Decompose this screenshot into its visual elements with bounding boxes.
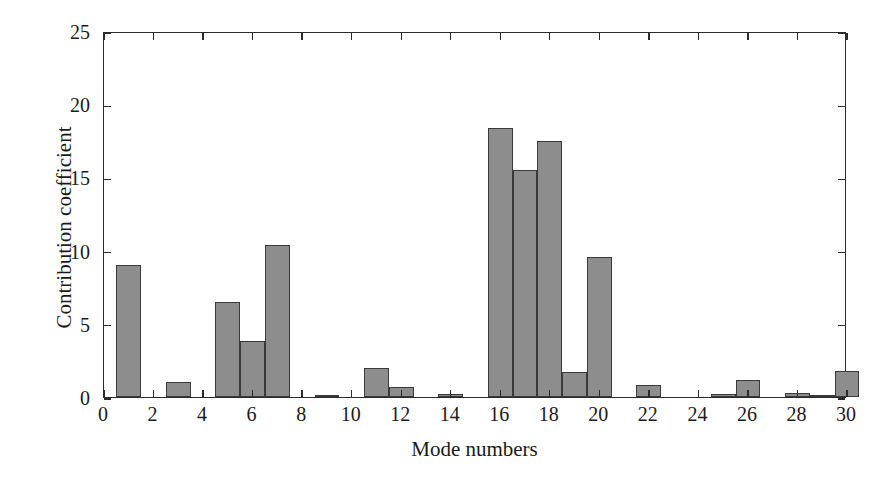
- x-tick-label-14: 14: [440, 404, 460, 424]
- x-tick-10: [351, 33, 352, 40]
- x-tick-14: [450, 390, 451, 397]
- y-tick-25: [104, 32, 111, 33]
- x-tick-label-2: 2: [148, 404, 158, 424]
- x-tick-28: [797, 390, 798, 397]
- x-tick-28: [797, 33, 798, 40]
- x-tick-label-12: 12: [390, 404, 410, 424]
- x-tick-24: [698, 390, 699, 397]
- x-tick-26: [747, 33, 748, 40]
- y-tick-10: [104, 252, 111, 253]
- bar-mode-9: [315, 395, 340, 397]
- x-tick-6: [252, 390, 253, 397]
- x-tick-18: [549, 33, 550, 40]
- bar-mode-3: [166, 382, 191, 397]
- bar-mode-6: [240, 341, 265, 397]
- x-tick-4: [202, 33, 203, 40]
- y-tick-10: [838, 252, 845, 253]
- x-tick-22: [648, 390, 649, 397]
- x-tick-12: [401, 390, 402, 397]
- bar-mode-7: [265, 245, 290, 397]
- x-tick-label-8: 8: [296, 404, 306, 424]
- plot-area: [103, 32, 846, 398]
- bar-mode-16: [488, 128, 513, 397]
- bar-mode-18: [537, 141, 562, 397]
- bar-mode-1: [116, 265, 141, 397]
- x-tick-label-4: 4: [197, 404, 207, 424]
- y-tick-15: [104, 179, 111, 180]
- x-tick-label-28: 28: [786, 404, 806, 424]
- x-tick-26: [747, 390, 748, 397]
- y-tick-15: [838, 179, 845, 180]
- x-tick-label-30: 30: [836, 404, 856, 424]
- y-tick-0: [104, 398, 111, 399]
- x-tick-label-16: 16: [489, 404, 509, 424]
- x-tick-0: [103, 33, 104, 40]
- x-tick-30: [846, 33, 847, 40]
- x-tick-8: [301, 33, 302, 40]
- x-tick-20: [599, 390, 600, 397]
- bar-mode-29: [810, 395, 835, 397]
- x-tick-label-6: 6: [247, 404, 257, 424]
- y-tick-5: [838, 325, 845, 326]
- bar-mode-25: [711, 394, 736, 397]
- x-tick-16: [500, 33, 501, 40]
- x-tick-label-24: 24: [687, 404, 707, 424]
- y-tick-20: [838, 106, 845, 107]
- x-tick-label-20: 20: [588, 404, 608, 424]
- x-tick-0: [103, 390, 104, 397]
- x-tick-16: [500, 390, 501, 397]
- x-tick-30: [846, 390, 847, 397]
- x-tick-2: [153, 390, 154, 397]
- x-tick-12: [401, 33, 402, 40]
- x-tick-label-18: 18: [539, 404, 559, 424]
- x-tick-label-22: 22: [638, 404, 658, 424]
- y-tick-20: [104, 106, 111, 107]
- x-axis-title: Mode numbers: [103, 437, 846, 462]
- y-tick-5: [104, 325, 111, 326]
- x-tick-label-10: 10: [341, 404, 361, 424]
- x-tick-24: [698, 33, 699, 40]
- x-tick-4: [202, 390, 203, 397]
- x-tick-2: [153, 33, 154, 40]
- x-tick-label-0: 0: [98, 404, 108, 424]
- bar-mode-20: [587, 257, 612, 397]
- x-tick-14: [450, 33, 451, 40]
- y-tick-label-25: 25: [16, 22, 90, 42]
- x-tick-6: [252, 33, 253, 40]
- x-tick-8: [301, 390, 302, 397]
- bar-mode-19: [562, 372, 587, 397]
- x-tick-22: [648, 33, 649, 40]
- bar-mode-5: [215, 302, 240, 397]
- bar-chart-figure: 024681012141618202224262830 0510152025 M…: [0, 0, 877, 481]
- x-tick-10: [351, 390, 352, 397]
- x-tick-18: [549, 390, 550, 397]
- bars-layer: [104, 33, 845, 397]
- bar-mode-17: [513, 170, 538, 397]
- x-tick-label-26: 26: [737, 404, 757, 424]
- y-tick-0: [838, 398, 845, 399]
- bar-mode-11: [364, 368, 389, 397]
- y-tick-25: [838, 32, 845, 33]
- y-axis-title: Contribution coefficient: [52, 58, 77, 398]
- x-tick-20: [599, 33, 600, 40]
